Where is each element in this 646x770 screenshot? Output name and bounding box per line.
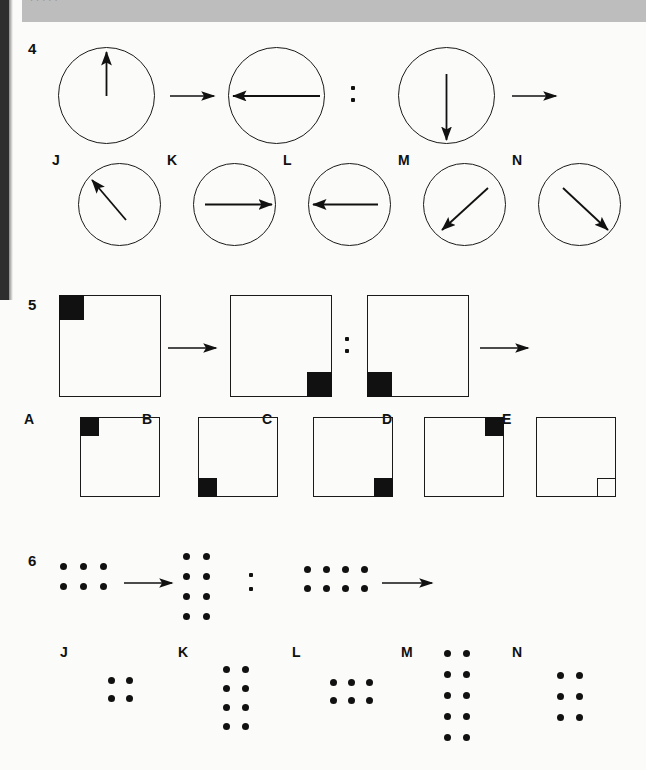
q6-option-letter-m: M [401,644,413,660]
dot [242,704,249,711]
dot [203,593,210,600]
q5-option-a-corner-top-left [80,417,99,436]
dot [348,697,355,704]
q5-option-a[interactable] [80,417,160,497]
dot [304,585,311,592]
dot [576,693,583,700]
dot [126,677,133,684]
q5-option-c[interactable] [313,417,393,497]
dot [304,566,311,573]
q6-option-letter-j: J [60,644,68,660]
scan-edge-strip [0,0,9,300]
dot [557,672,564,679]
q4-option-j[interactable] [78,163,161,246]
q5-stem-term-a-corner-top-left [59,295,84,320]
dot [223,704,230,711]
q4-option-letter-n: N [512,152,522,168]
q5-option-letter-a: A [24,411,34,427]
dot [361,566,368,573]
q4-option-letter-k: K [167,152,177,168]
q4-option-l[interactable] [308,163,391,246]
q6-colon-dot-top [249,573,253,577]
dot [576,714,583,721]
q5-colon-dot-bottom [345,349,349,353]
dot [366,697,373,704]
q5-stem-term-d-blank [545,295,630,397]
dot [100,563,107,570]
q4-colon-dot-top [351,86,355,90]
q4-stem-term-b [228,47,325,144]
dot [557,693,564,700]
q4-option-n[interactable] [538,163,621,246]
dot [183,613,190,620]
dot [183,593,190,600]
dot [463,671,470,678]
question-4-number: 4 [28,40,36,57]
dot [348,679,355,686]
q5-option-e-corner-bottom-right [597,478,616,497]
dot [463,713,470,720]
header-band: . . , , . [22,0,646,22]
dot [323,585,330,592]
dot [242,723,249,730]
q5-stem-term-c [367,295,469,397]
dot [80,563,87,570]
q5-option-b-corner-bottom-left [198,478,217,497]
dot [444,650,451,657]
dot [444,692,451,699]
q4-option-m[interactable] [423,163,506,246]
dot [557,714,564,721]
dot [60,563,67,570]
q5-option-e[interactable] [536,417,616,497]
dot [323,566,330,573]
q6-colon-dot-bottom [249,587,253,591]
dot [330,679,337,686]
test-page: . . , , . 4 J K L M N 5 [0,0,646,770]
dot [108,677,115,684]
dot [242,685,249,692]
q4-option-k[interactable] [193,163,276,246]
dot [342,566,349,573]
dot [463,650,470,657]
q4-stem-term-d-blank [555,47,635,144]
q5-stem-term-b-corner-bottom-right [307,372,332,397]
dot [183,573,190,580]
dot [342,585,349,592]
q5-stem-term-a [59,295,161,397]
dot [444,713,451,720]
header-band-text: . . , , . [30,0,58,1]
dot [203,573,210,580]
question-6-number: 6 [28,552,36,569]
q5-option-d-corner-top-right [485,417,504,436]
dot [203,553,210,560]
dot [126,695,133,702]
q5-stem-term-c-corner-bottom-left [367,372,392,397]
q5-option-b[interactable] [198,417,278,497]
q5-option-c-corner-bottom-right [374,478,393,497]
question-5-number: 5 [28,296,36,313]
dot [444,734,451,741]
q4-option-letter-j: J [52,152,60,168]
dot [100,583,107,590]
dot [576,672,583,679]
q6-stem-term-d-blank [470,560,540,605]
q4-stem-term-a [58,47,155,144]
dot [463,734,470,741]
dot [183,553,190,560]
q4-option-letter-m: M [398,152,410,168]
dot [223,685,230,692]
dot [80,583,87,590]
dot [60,583,67,590]
q6-option-letter-k: K [178,644,188,660]
dot [444,671,451,678]
q4-colon-dot-bottom [351,98,355,102]
q4-stem-term-c [398,47,495,144]
q5-option-d[interactable] [424,417,504,497]
dot [366,679,373,686]
dot [330,697,337,704]
dot [463,692,470,699]
dot [361,585,368,592]
q6-option-letter-n: N [512,644,522,660]
scan-edge-gradient [9,0,13,300]
dot [203,613,210,620]
